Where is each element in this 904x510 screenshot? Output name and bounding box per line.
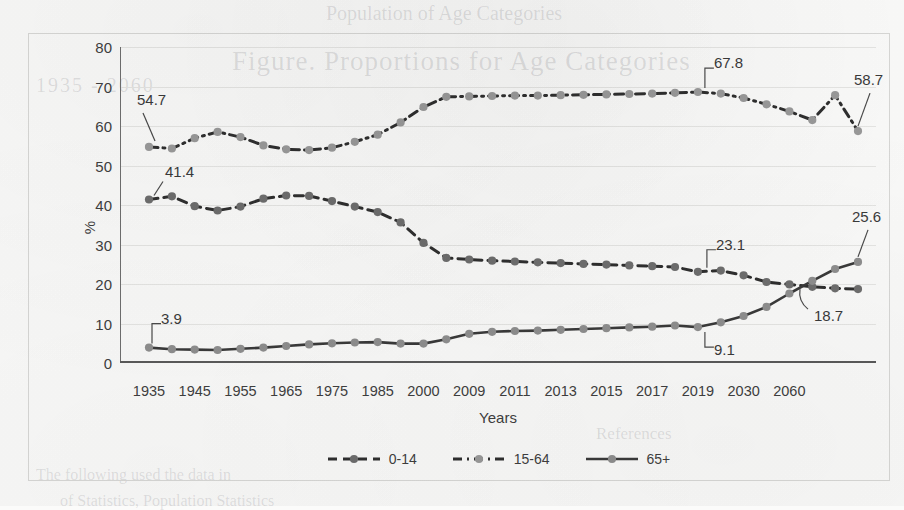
data-point-65+-2011 [511, 327, 519, 335]
data-point-0-14-2018 [671, 263, 679, 271]
leader-line-ann-23-1 [707, 250, 716, 268]
data-point-15-64-2019 [694, 88, 702, 96]
data-point-15-64-2013 [557, 91, 565, 99]
y-tick-0: 0 [104, 355, 112, 372]
series-line-0-14 [149, 196, 858, 290]
leader-line-ann-9-1 [705, 332, 714, 347]
data-label-25-6: 25.6 [852, 208, 881, 225]
leader-line-ann-18-7 [800, 289, 808, 309]
leader-line-ann-67-8 [705, 68, 714, 88]
data-point-15-64-1945 [191, 134, 199, 142]
data-point-15-64-2060 [831, 91, 839, 99]
x-tick-2000: 2000 [407, 383, 439, 399]
x-tick-1955: 1955 [224, 383, 256, 399]
data-point-0-14-1955 [236, 203, 244, 211]
data-point-0-14-2000 [419, 239, 427, 247]
data-point-15-64-1960 [259, 141, 267, 149]
data-point-65+-2019 [694, 323, 702, 331]
data-point-0-14-2015 [602, 261, 610, 269]
data-point-65+-2040 [785, 289, 793, 297]
x-tick-2030: 2030 [728, 383, 760, 399]
data-point-65+-2015 [602, 324, 610, 332]
data-point-65+-1935 [145, 344, 153, 352]
data-point-0-14-2030 [762, 278, 770, 286]
data-point-0-14-1990 [397, 218, 405, 226]
x-tick-2009: 2009 [453, 383, 485, 399]
data-point-15-64-2000 [419, 103, 427, 111]
data-point-15-64-2011 [511, 92, 519, 100]
data-point-65+-2060 [831, 265, 839, 273]
data-point-15-64-2005 [442, 93, 450, 101]
data-label-18-7: 18.7 [814, 307, 843, 324]
x-tick-2019: 2019 [682, 383, 714, 399]
legend-item-0-14[interactable]: 0-14 [326, 451, 417, 467]
y-tick-70: 70 [95, 78, 112, 95]
data-point-65+-1980 [351, 338, 359, 346]
data-point-65+-2025 [740, 312, 748, 320]
data-point-0-14-2020 [717, 267, 725, 275]
data-point-65+-2020 [717, 318, 725, 326]
series-line-15-64 [149, 92, 858, 150]
ghost-text-top: Population of Age Categories [326, 2, 562, 25]
data-point-15-64-2070 [854, 127, 862, 135]
x-axis-title: Years [120, 409, 876, 426]
data-label-58-7: 58.7 [854, 71, 883, 88]
data-point-0-14-2040 [785, 280, 793, 288]
data-point-65+-2018 [671, 321, 679, 329]
y-tick-20: 20 [95, 276, 112, 293]
data-point-0-14-1980 [351, 203, 359, 211]
y-tick-40: 40 [95, 197, 112, 214]
data-point-15-64-2016 [625, 90, 633, 98]
data-point-65+-2014 [579, 325, 587, 333]
data-point-0-14-1935 [145, 195, 153, 203]
data-point-65+-1990 [397, 340, 405, 348]
data-point-15-64-2010 [488, 92, 496, 100]
x-tick-1935: 1935 [133, 383, 165, 399]
data-point-65+-2013 [557, 326, 565, 334]
x-tick-2011: 2011 [499, 383, 530, 399]
data-point-15-64-2040 [785, 107, 793, 115]
data-point-65+-1970 [305, 340, 313, 348]
data-point-0-14-2014 [579, 260, 587, 268]
data-point-15-64-1965 [282, 145, 290, 153]
x-tick-1945: 1945 [179, 383, 211, 399]
data-label-3-9: 3.9 [161, 310, 182, 327]
data-point-65+-1945 [191, 346, 199, 354]
data-point-15-64-2050 [808, 116, 816, 124]
data-point-65+-1955 [236, 345, 244, 353]
data-point-0-14-1975 [328, 197, 336, 205]
data-label-23-1: 23.1 [716, 236, 745, 253]
x-tick-2060: 2060 [773, 383, 805, 399]
data-point-65+-2010 [488, 328, 496, 336]
x-tick-2013: 2013 [545, 383, 577, 399]
data-point-15-64-1980 [351, 138, 359, 146]
legend-item-65+[interactable]: 65+ [584, 451, 671, 467]
legend-label-15-64: 15-64 [514, 451, 550, 467]
data-point-0-14-2009 [465, 255, 473, 263]
data-point-15-64-2020 [717, 90, 725, 98]
data-point-15-64-2015 [602, 90, 610, 98]
data-point-65+-2017 [648, 323, 656, 331]
data-point-65+-2009 [465, 330, 473, 338]
data-point-15-64-1955 [236, 133, 244, 141]
x-tick-1975: 1975 [316, 383, 348, 399]
data-point-15-64-1935 [145, 143, 153, 151]
data-point-0-14-2017 [648, 262, 656, 270]
legend-swatch-65+ [584, 452, 640, 466]
data-point-15-64-2018 [671, 89, 679, 97]
data-point-15-64-1985 [374, 131, 382, 139]
data-point-15-64-2025 [740, 94, 748, 102]
data-point-15-64-1990 [397, 118, 405, 126]
data-point-15-64-2012 [534, 92, 542, 100]
series-line-65+ [149, 262, 858, 350]
data-point-15-64-2014 [579, 91, 587, 99]
data-point-65+-2012 [534, 327, 542, 335]
data-label-9-1: 9.1 [714, 341, 735, 358]
data-point-65+-1985 [374, 338, 382, 346]
x-tick-1985: 1985 [362, 383, 394, 399]
leader-line-ann-41-4 [154, 181, 163, 195]
chart-legend: 0-1415-6465+ [120, 451, 876, 467]
data-point-15-64-2017 [648, 90, 656, 98]
legend-item-15-64[interactable]: 15-64 [451, 451, 550, 467]
leader-line-ann-25-6 [858, 230, 868, 257]
